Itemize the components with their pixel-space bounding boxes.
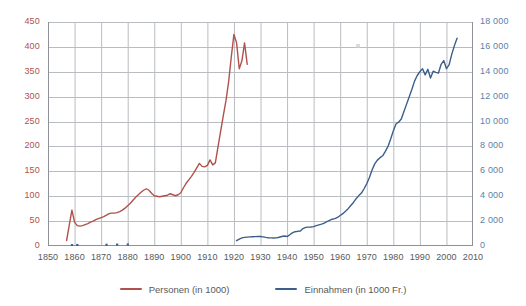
y-tick-left-100: 100 [0, 190, 40, 200]
chart-container: Personen (in 1000) Einnahmen (in 1000 Fr… [0, 0, 526, 306]
y-tick-left-0: 0 [0, 240, 40, 250]
y-tick-right-16000: 16 000 [480, 41, 509, 51]
legend-label-personen: Personen (in 1000) [149, 284, 230, 295]
y-tick-right-10000: 10 000 [480, 116, 509, 126]
legend-swatch-einnahmen [275, 288, 297, 291]
y-tick-right-6000: 6 000 [480, 165, 504, 175]
image-artifact-speck [356, 44, 360, 48]
y-tick-left-450: 450 [0, 16, 40, 26]
y-tick-left-150: 150 [0, 165, 40, 175]
legend-swatch-personen [120, 288, 142, 291]
y-tick-right-18000: 18 000 [480, 16, 509, 26]
y-tick-left-350: 350 [0, 66, 40, 76]
chart-legend: Personen (in 1000) Einnahmen (in 1000 Fr… [0, 279, 526, 299]
y-tick-right-12000: 12 000 [480, 91, 509, 101]
legend-item-einnahmen: Einnahmen (in 1000 Fr.) [275, 284, 406, 295]
y-tick-right-0: 0 [480, 240, 485, 250]
y-tick-right-2000: 2 000 [480, 215, 504, 225]
legend-item-personen: Personen (in 1000) [120, 284, 230, 295]
y-tick-left-250: 250 [0, 116, 40, 126]
plot-area [48, 22, 473, 246]
y-tick-right-14000: 14 000 [480, 66, 509, 76]
y-tick-left-400: 400 [0, 41, 40, 51]
y-tick-right-8000: 8 000 [480, 140, 504, 150]
y-tick-right-4000: 4 000 [480, 190, 504, 200]
series-lines [48, 22, 473, 246]
x-tick-2010: 2010 [453, 252, 493, 262]
y-tick-left-50: 50 [0, 215, 40, 225]
legend-label-einnahmen: Einnahmen (in 1000 Fr.) [304, 284, 406, 295]
y-tick-left-200: 200 [0, 140, 40, 150]
y-tick-left-300: 300 [0, 91, 40, 101]
